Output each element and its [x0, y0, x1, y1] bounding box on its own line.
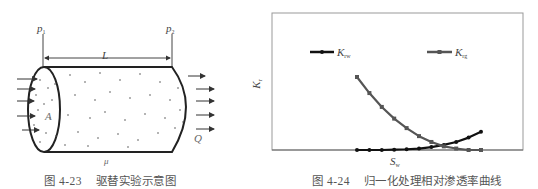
data-point-marker — [417, 134, 421, 138]
data-point-marker — [454, 147, 458, 151]
legend-krg-label: Krg — [455, 47, 467, 59]
relative-permeability-chart — [235, 0, 538, 189]
data-point-marker — [405, 126, 409, 130]
data-point-marker — [442, 144, 446, 148]
data-point-marker — [467, 148, 471, 152]
caption-text: 驱替实验示意图 — [96, 175, 177, 187]
data-point-marker — [392, 117, 396, 121]
data-point-marker — [405, 147, 409, 151]
p1-label: p1 — [37, 23, 46, 35]
outlet-flow-arrows — [188, 76, 214, 129]
caption-number: 图 4-23 — [44, 175, 82, 187]
length-label: L — [102, 50, 108, 61]
legend-krw-label: Krw — [337, 47, 351, 59]
data-point-marker — [429, 140, 433, 144]
data-point-marker — [417, 147, 421, 151]
y-axis-label: Kr — [251, 79, 263, 88]
data-point-marker — [380, 148, 384, 152]
caption-text: 归一化处理相对渗透率曲线 — [364, 175, 502, 187]
data-point-marker — [429, 145, 433, 149]
data-point-marker — [479, 148, 483, 152]
data-point-marker — [355, 148, 359, 152]
viscosity-label: μ — [104, 157, 109, 166]
inlet-face-ellipse — [28, 67, 60, 152]
core-cylinder-body — [44, 67, 186, 152]
displacement-experiment-figure: p1 p2 L A Q μ 图 4-23驱替实验示意图 — [0, 0, 235, 189]
data-point-marker — [367, 91, 371, 95]
x-axis-label: Sw — [390, 156, 400, 168]
data-point-marker — [454, 140, 458, 144]
series-layer — [355, 75, 483, 152]
data-point-marker — [367, 148, 371, 152]
core-sample-diagram — [0, 0, 235, 189]
flow-rate-label: Q — [194, 133, 202, 144]
legend — [310, 50, 452, 54]
data-point-marker — [392, 148, 396, 152]
figure-caption: 图 4-24归一化处理相对渗透率曲线 — [312, 172, 502, 188]
caption-number: 图 4-24 — [312, 175, 350, 187]
data-point-marker — [355, 75, 359, 79]
area-label: A — [45, 111, 52, 122]
plot-frame — [272, 13, 523, 150]
data-point-marker — [479, 130, 483, 134]
relative-permeability-figure: Krw Krg Kr Sw 图 4-24归一化处理相对渗透率曲线 — [235, 0, 538, 189]
data-point-marker — [467, 136, 471, 140]
data-point-marker — [380, 105, 384, 109]
figure-caption: 图 4-23驱替实验示意图 — [44, 172, 176, 188]
p2-label: p2 — [166, 23, 175, 35]
